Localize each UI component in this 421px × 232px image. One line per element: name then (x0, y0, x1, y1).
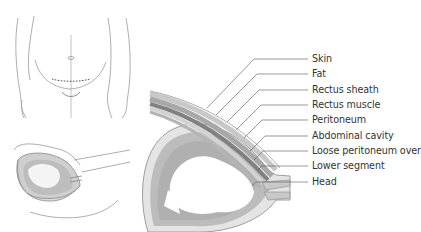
label-skin: Skin (312, 53, 332, 64)
label-peritoneum: Peritoneum (312, 114, 366, 125)
label-loose-peritoneum: Loose peritoneum over (312, 145, 421, 156)
label-head: Head (312, 176, 337, 187)
detail-view-panel (143, 91, 290, 232)
label-lower-segment: Lower segment (312, 160, 385, 171)
side-view-panel (14, 144, 130, 218)
label-abdominal-cavity: Abdominal cavity (312, 130, 394, 141)
label-fat: Fat (312, 68, 326, 79)
label-rectus-muscle: Rectus muscle (312, 99, 380, 110)
label-rectus-sheath: Rectus sheath (312, 84, 379, 95)
front-view-panel (16, 16, 130, 118)
